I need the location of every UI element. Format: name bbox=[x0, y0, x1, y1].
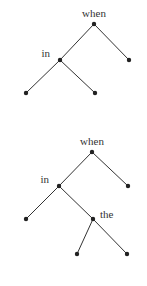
node-label: the bbox=[100, 208, 114, 220]
edge bbox=[26, 186, 59, 219]
leaf-node bbox=[127, 58, 131, 62]
edge bbox=[77, 219, 93, 254]
node-label: in bbox=[40, 173, 49, 185]
root-label: when bbox=[82, 7, 106, 19]
edge bbox=[93, 219, 127, 254]
edge bbox=[59, 186, 93, 219]
internal-node bbox=[57, 184, 61, 188]
tree-diagrams: when in when in the bbox=[0, 0, 147, 286]
leaf-node bbox=[125, 252, 129, 256]
edge bbox=[26, 60, 60, 93]
edge bbox=[60, 60, 95, 93]
edge bbox=[92, 152, 128, 186]
leaf-node bbox=[93, 91, 97, 95]
root-node bbox=[92, 22, 96, 26]
edge bbox=[60, 24, 94, 60]
tree-1: when in bbox=[24, 7, 131, 95]
tree-2: when in the bbox=[24, 135, 130, 256]
leaf-node bbox=[24, 91, 28, 95]
node-label: in bbox=[41, 47, 50, 59]
leaf-node bbox=[126, 184, 130, 188]
root-label: when bbox=[80, 135, 104, 147]
edge bbox=[94, 24, 129, 60]
root-node bbox=[90, 150, 94, 154]
internal-node bbox=[91, 217, 95, 221]
leaf-node bbox=[75, 252, 79, 256]
leaf-node bbox=[24, 217, 28, 221]
edge bbox=[59, 152, 92, 186]
internal-node bbox=[58, 58, 62, 62]
